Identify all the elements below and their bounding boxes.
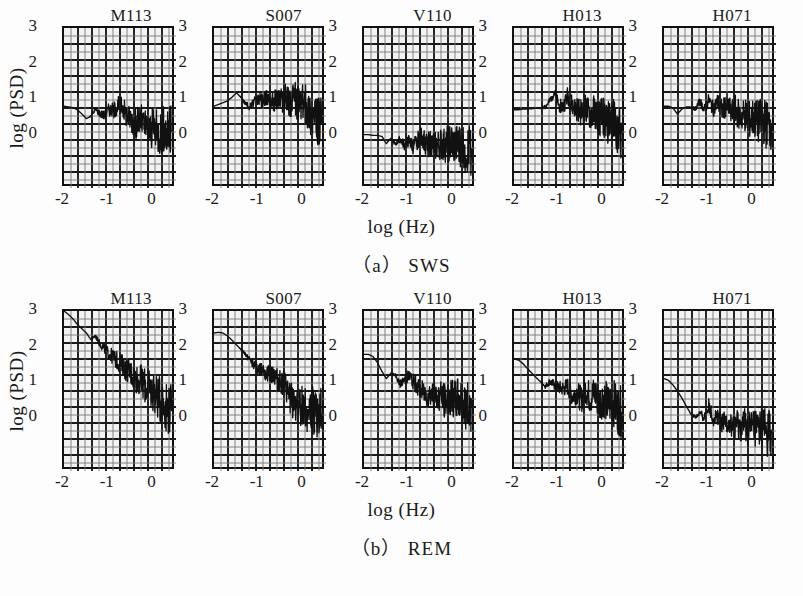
y-tick-label: 0 [321, 406, 337, 426]
x-tick-label: 0 [589, 472, 615, 492]
panel-group-rem: M1133210-2-10 S0073210-2-10 V1103210-2-1… [40, 291, 800, 496]
plot-area [362, 309, 474, 469]
y-tick-label: 1 [21, 370, 37, 390]
y-tick-label: 2 [171, 335, 187, 355]
x-tick-label: -1 [394, 472, 420, 492]
x-tick-label: -2 [199, 189, 225, 209]
subfigure-caption-sws: （a） SWS [0, 250, 803, 277]
y-tick-label: 2 [171, 52, 187, 72]
panel-rem-h071: H0713210-2-10 [640, 309, 752, 469]
panel-title: M113 [110, 289, 152, 309]
y-tick-label: 3 [471, 299, 487, 319]
y-tick-label: 3 [171, 299, 187, 319]
figure-row-rem: log (PSD) M1133210-2-10 S0073210-2-10 V1… [0, 283, 803, 533]
y-tick-label: 0 [471, 406, 487, 426]
figure-psd-spectra: log (PSD) M1133210-2-10 S0073210-2-10 V1… [0, 0, 803, 596]
y-tick-label: 3 [21, 299, 37, 319]
panel-sws-h071: H0713210-2-10 [640, 26, 752, 186]
panel-title: V110 [413, 6, 452, 26]
plot-area [512, 26, 624, 186]
y-tick-label: 0 [321, 123, 337, 143]
x-tick-label: -2 [349, 189, 375, 209]
figure-row-sws: log (PSD) M1133210-2-10 S0073210-2-10 V1… [0, 0, 803, 250]
y-tick-label: 1 [621, 370, 637, 390]
y-axis-label-wrap-sws: log (PSD) [2, 8, 36, 208]
y-axis-label-wrap-rem: log (PSD) [2, 291, 36, 491]
x-tick-label: -1 [244, 472, 270, 492]
x-axis-label-sws: log (Hz) [0, 216, 803, 238]
y-tick-label: 0 [21, 123, 37, 143]
x-tick-label: 0 [289, 472, 315, 492]
y-tick-label: 2 [21, 335, 37, 355]
x-tick-label: -2 [49, 472, 75, 492]
y-tick-label: 2 [621, 52, 637, 72]
panel-sws-v110: V1103210-2-10 [340, 26, 452, 186]
x-tick-label: -2 [199, 472, 225, 492]
y-tick-label: 0 [171, 123, 187, 143]
y-tick-label: 0 [21, 406, 37, 426]
x-tick-label: 0 [139, 189, 165, 209]
panel-title: H071 [713, 289, 752, 309]
x-tick-label: -1 [544, 189, 570, 209]
x-tick-label: -2 [499, 189, 525, 209]
x-tick-label: -1 [694, 472, 720, 492]
y-tick-label: 3 [621, 299, 637, 319]
x-tick-label: -1 [94, 472, 120, 492]
panel-title: M113 [110, 6, 152, 26]
y-tick-label: 1 [471, 87, 487, 107]
plot-area [362, 26, 474, 186]
x-tick-label: 0 [439, 189, 465, 209]
y-tick-label: 3 [171, 16, 187, 36]
x-tick-label: -1 [394, 189, 420, 209]
y-tick-label: 1 [21, 87, 37, 107]
panel-rem-s007: S0073210-2-10 [190, 309, 302, 469]
y-tick-label: 2 [21, 52, 37, 72]
y-tick-label: 1 [621, 87, 637, 107]
x-tick-label: 0 [289, 189, 315, 209]
y-tick-label: 0 [621, 406, 637, 426]
y-tick-label: 2 [321, 52, 337, 72]
y-tick-label: 1 [171, 370, 187, 390]
y-tick-label: 1 [171, 87, 187, 107]
x-axis-label-rem: log (Hz) [0, 499, 803, 521]
panel-title: H071 [713, 6, 752, 26]
x-tick-label: 0 [739, 472, 765, 492]
y-tick-label: 3 [321, 299, 337, 319]
panel-sws-m113: M1133210-2-10 [40, 26, 152, 186]
plot-area [62, 26, 174, 186]
x-tick-label: -2 [349, 472, 375, 492]
x-tick-label: 0 [589, 189, 615, 209]
y-tick-label: 1 [471, 370, 487, 390]
y-tick-label: 2 [471, 52, 487, 72]
panel-title: V110 [413, 289, 452, 309]
y-tick-label: 3 [471, 16, 487, 36]
x-tick-label: -2 [499, 472, 525, 492]
y-tick-label: 2 [321, 335, 337, 355]
plot-area [662, 26, 774, 186]
y-tick-label: 3 [621, 16, 637, 36]
panel-title: S007 [265, 289, 302, 309]
panel-rem-h013: H0133210-2-10 [490, 309, 602, 469]
panel-title: H013 [563, 6, 602, 26]
x-tick-label: -1 [244, 189, 270, 209]
plot-area [662, 309, 774, 469]
x-tick-label: 0 [739, 189, 765, 209]
y-tick-label: 3 [321, 16, 337, 36]
y-tick-label: 2 [621, 335, 637, 355]
y-tick-label: 3 [21, 16, 37, 36]
x-tick-label: -2 [49, 189, 75, 209]
x-tick-label: -1 [694, 189, 720, 209]
x-tick-label: -2 [649, 472, 675, 492]
plot-area [212, 26, 324, 186]
y-tick-label: 1 [321, 87, 337, 107]
plot-area [512, 309, 624, 469]
subfigure-caption-rem: （b） REM [0, 533, 803, 560]
x-tick-label: -2 [649, 189, 675, 209]
y-tick-label: 0 [621, 123, 637, 143]
y-tick-label: 0 [171, 406, 187, 426]
panel-rem-m113: M1133210-2-10 [40, 309, 152, 469]
y-tick-label: 0 [471, 123, 487, 143]
panel-title: H013 [563, 289, 602, 309]
panel-title: S007 [265, 6, 302, 26]
panel-rem-v110: V1103210-2-10 [340, 309, 452, 469]
